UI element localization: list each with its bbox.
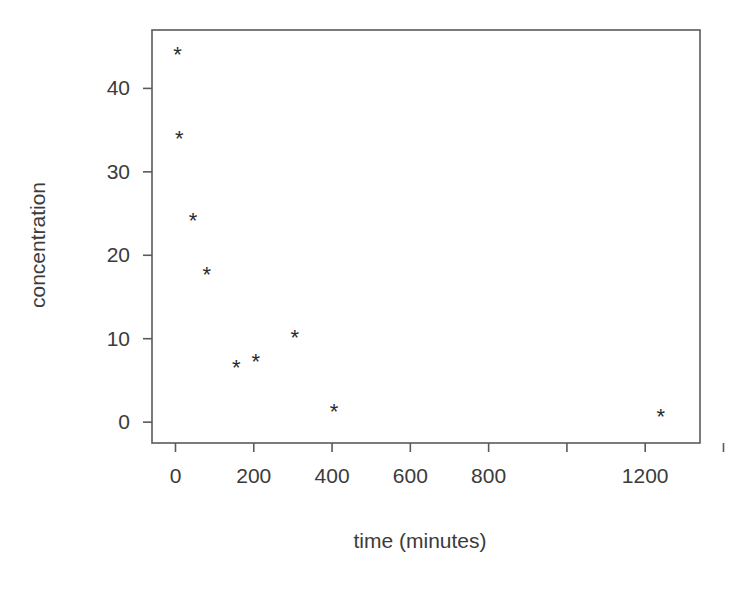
x-tick-label: 200 — [236, 464, 271, 487]
axis-frame — [152, 30, 700, 443]
data-point-marker: * — [175, 126, 184, 151]
plot-canvas: 010203040 02004006008001200 ********* ti… — [0, 0, 732, 591]
data-point-marker: * — [203, 262, 212, 287]
data-point-marker: * — [291, 325, 300, 350]
x-tick-label: 600 — [393, 464, 428, 487]
data-point-marker: * — [173, 42, 182, 67]
data-point-marker: * — [232, 355, 241, 380]
y-axis-tick-labels: 010203040 — [107, 76, 130, 433]
y-tick-label: 30 — [107, 160, 130, 183]
data-point-marker: * — [189, 208, 198, 233]
y-tick-label: 0 — [118, 410, 130, 433]
y-tick-label: 20 — [107, 243, 130, 266]
x-axis-tick-labels: 02004006008001200 — [170, 464, 669, 487]
data-point-marker: * — [251, 349, 260, 374]
x-axis-title: time (minutes) — [353, 529, 486, 552]
y-tick-label: 40 — [107, 76, 130, 99]
x-tick-label: 0 — [170, 464, 182, 487]
x-axis-ticks — [175, 443, 723, 452]
x-tick-label: 1200 — [622, 464, 669, 487]
scatter-plot-figure: 010203040 02004006008001200 ********* ti… — [0, 0, 732, 591]
data-point-marker: * — [657, 404, 666, 429]
data-point-marker: * — [330, 399, 339, 424]
y-tick-label: 10 — [107, 327, 130, 350]
data-point-series: ********* — [173, 42, 665, 429]
x-tick-label: 800 — [471, 464, 506, 487]
y-axis-ticks — [143, 88, 152, 422]
x-tick-label: 400 — [315, 464, 350, 487]
y-axis-title: concentration — [26, 182, 49, 308]
